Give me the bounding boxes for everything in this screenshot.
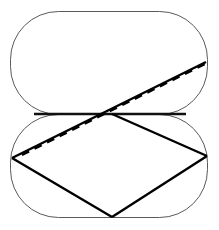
figure-svg xyxy=(0,0,219,230)
geometry-figure xyxy=(0,0,219,230)
lower-stadium-shape xyxy=(11,115,208,218)
upper-stadium-shape xyxy=(11,12,208,115)
